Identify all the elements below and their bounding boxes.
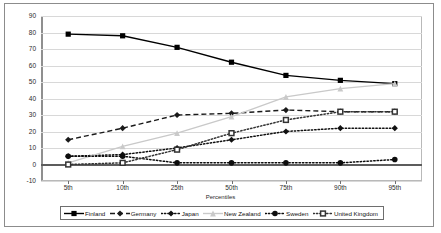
data-point-marker (321, 211, 326, 216)
y-axis-tick-label: 90 (10, 12, 36, 19)
x-axis-tick-label: 5th (48, 184, 88, 192)
x-axis-tick-label: 50th (212, 184, 252, 192)
gridline (41, 99, 422, 100)
y-axis-tick-label: 30 (10, 111, 36, 118)
legend-item-united-kingdom[interactable]: United Kingdom (313, 209, 380, 218)
legend-label: Sweden (286, 210, 310, 217)
gridline (41, 16, 422, 17)
gridline (41, 49, 422, 50)
y-axis-tick-label: 40 (10, 95, 36, 102)
legend-label: New Zealand (224, 210, 262, 217)
legend-sample-circle-icon (265, 209, 285, 218)
gridline (41, 115, 422, 116)
y-axis-tick-label: 0 (10, 161, 36, 168)
chart-legend: FinlandGermanyJapanNew ZealandSwedenUnit… (60, 206, 384, 220)
y-axis-tick-label: -10 (10, 177, 36, 184)
x-axis-tick-label: 90th (320, 184, 360, 192)
y-axis-tick-label: 70 (10, 45, 36, 52)
legend-item-japan[interactable]: Japan (161, 209, 201, 218)
legend-label: Germany (131, 210, 158, 217)
legend-sample-diamond-icon (110, 209, 130, 218)
legend-sample-square-open-icon (313, 209, 333, 218)
legend-sample-diamond-icon (161, 209, 181, 218)
x-axis-tick-label: 95th (375, 184, 415, 192)
legend-sample-triangle-icon (203, 209, 223, 218)
x-axis-tick-label: 25th (157, 184, 197, 192)
x-axis-tick-label: 75th (266, 184, 306, 192)
data-point-marker (71, 210, 76, 215)
gridline (41, 33, 422, 34)
gridline (41, 66, 422, 67)
legend-item-sweden[interactable]: Sweden (265, 209, 310, 218)
legend-item-new-zealand[interactable]: New Zealand (203, 209, 262, 218)
legend-item-germany[interactable]: Germany (110, 209, 158, 218)
legend-sample-square-icon (64, 209, 84, 218)
x-axis-tick-label: 10th (103, 184, 143, 192)
y-axis-tick-label: 10 (10, 144, 36, 151)
y-axis-tick-label: 60 (10, 62, 36, 69)
y-axis-tick-label: 20 (10, 128, 36, 135)
zero-axis-line (41, 164, 422, 166)
x-axis-title: Percentiles (0, 194, 441, 200)
data-point-marker (272, 210, 278, 216)
gridline (41, 132, 422, 133)
y-axis-tick-label: 50 (10, 78, 36, 85)
legend-label: United Kingdom (334, 210, 380, 217)
chart-screenshot: 9080706050403020100-10 5th10th25th50th75… (0, 0, 441, 233)
legend-label: Finland (85, 210, 107, 217)
gridline (41, 82, 422, 83)
legend-label: Japan (182, 210, 201, 217)
legend-item-finland[interactable]: Finland (64, 209, 107, 218)
data-point-marker (117, 210, 123, 216)
y-axis-tick-label: 80 (10, 29, 36, 36)
data-point-marker (168, 210, 174, 216)
gridline (41, 148, 422, 149)
